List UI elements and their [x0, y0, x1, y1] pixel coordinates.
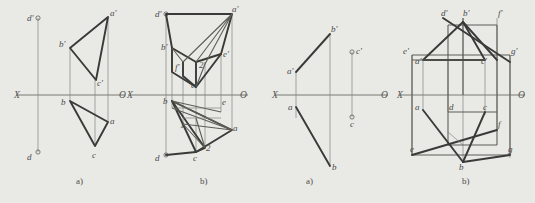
fig1a-label-d: d [27, 152, 32, 162]
fig2b-label-g: g [508, 144, 513, 154]
fig1b-label-e: e [222, 97, 226, 107]
fig1a-triangle-lower [70, 101, 108, 146]
fig2b-label-f: f [498, 119, 502, 129]
fig1b-label-e-prime: e' [223, 49, 230, 59]
fig1b-label-O: O [240, 90, 247, 100]
fig2a-label-O: O [381, 90, 388, 100]
fig2b-upper-edge-b-c [463, 22, 497, 60]
fig2a-label-b: b [332, 162, 337, 172]
fig2b-upper-rect-outer [412, 55, 510, 95]
fig2b-upper-face-left [423, 22, 485, 60]
fig2b-label-b: b [459, 162, 464, 172]
fig2a-label-c: c [350, 119, 354, 129]
fig2b-label-f-prime: f' [498, 8, 504, 18]
fig2b-label-X: X [396, 90, 404, 100]
fig1b-label-2-prime: 2' [199, 60, 207, 70]
fig2b-label-e: e [410, 144, 414, 154]
fig1b-label-a-prime: a' [232, 4, 240, 14]
fig1a-label-O: O [119, 90, 126, 100]
fig2b-label-g-prime: g' [511, 46, 519, 56]
fig1b-label-d-prime: d' [155, 9, 163, 19]
fig2a-caption: a) [306, 176, 313, 186]
fig2b-label-e-prime: e' [403, 46, 410, 56]
fig2a-label-X: X [271, 90, 279, 100]
fig2b-label-c-prime: c' [481, 56, 488, 66]
figure-2a: X O b' a' c' a c b a) [271, 24, 388, 186]
fig1b-label-2: 2 [206, 143, 211, 153]
fig1a-label-a-prime: a' [110, 8, 118, 18]
fig2b-label-a-prime: a' [415, 56, 423, 66]
fig1a-label-c: c [92, 150, 96, 160]
fig1b-label-a: a [233, 123, 238, 133]
fig2b-label-c: c [483, 102, 487, 112]
fig2b-lower-edge-b-g [463, 155, 510, 162]
fig2b-label-d: d [449, 102, 454, 112]
fig2a-label-c-prime: c' [356, 46, 363, 56]
fig1b-label-f-prime: f' [175, 62, 181, 72]
fig1b-label-b: b [163, 96, 168, 106]
fig1a-triangle-upper [70, 17, 108, 80]
fig1b-label-b-prime: b' [161, 42, 169, 52]
fig1a-label-d-prime: d' [27, 13, 35, 23]
fig1a-label-a: a [110, 116, 115, 126]
fig2a-label-a: a [288, 102, 293, 112]
fig2b-lower-edge-a-b [423, 110, 463, 162]
fig1b-caption: b) [200, 176, 208, 186]
fig2b-label-b-prime: b' [463, 8, 471, 18]
fig2a-label-b-prime: b' [331, 24, 339, 34]
fig2a-segment-a-prime-b-prime [296, 34, 330, 72]
fig2a-segment-a-b [296, 107, 330, 166]
figure-1a: X O d' a' b' c' b a c d a) [13, 8, 126, 186]
fig2b-lower-rect-outer [412, 95, 510, 155]
fig1b-label-d: d [155, 153, 160, 163]
fig1a-label-b: b [61, 97, 66, 107]
fig2b-caption: b) [462, 176, 470, 186]
fig1a-label-X: X [13, 90, 21, 100]
fig1b-label-X: X [126, 90, 134, 100]
fig1b-label-1: 1 [180, 120, 185, 130]
figure-2b: X O d' b' f' e' a' c' g' a d c f e b g b… [396, 8, 525, 186]
figure-1b: X O d' a' b' e' f' 2' c' b 1 e a 2 c d b… [126, 4, 248, 186]
drawing-page: X O d' a' b' c' b a c d a) X O d' [0, 0, 535, 203]
fig2b-label-a: a [415, 102, 420, 112]
fig2b-label-d-prime: d' [441, 8, 449, 18]
fig1a-label-b-prime: b' [59, 39, 67, 49]
fig2a-label-a-prime: a' [287, 66, 295, 76]
fig2b-label-O: O [518, 90, 525, 100]
fig1a-caption: a) [76, 176, 83, 186]
fig1b-label-c: c [193, 153, 197, 163]
fig1a-label-c-prime: c' [97, 78, 104, 88]
